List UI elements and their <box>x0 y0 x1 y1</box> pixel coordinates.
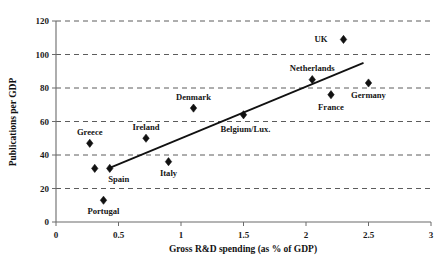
y-axis-title: Publications per GDP <box>8 78 18 167</box>
data-label-netherlands: Netherlands <box>290 63 336 73</box>
data-label-germany: Germany <box>351 90 387 100</box>
y-tick-label-80: 80 <box>40 83 50 93</box>
x-tick-label-2_5: 2.5 <box>363 230 375 240</box>
x-tick-label-3: 3 <box>429 230 434 240</box>
x-tick-label-1: 1 <box>179 230 184 240</box>
trend-line <box>109 63 364 169</box>
y-tick-label-120: 120 <box>36 16 50 26</box>
x-axis-title: Gross R&D spending (as % of GDP) <box>169 244 317 255</box>
data-marker-germany <box>365 79 371 87</box>
y-tick-label-0: 0 <box>45 217 50 227</box>
data-marker-spain <box>107 164 113 172</box>
data-label-france: France <box>318 102 344 112</box>
data-marker-denmark <box>190 104 196 112</box>
data-marker-greece <box>87 139 93 147</box>
data-label-spain: Spain <box>108 174 129 184</box>
x-tick-label-0_5: 0.5 <box>113 230 125 240</box>
y-tick-label-20: 20 <box>40 184 50 194</box>
data-label-ireland: Ireland <box>132 122 159 132</box>
data-marker-france <box>328 91 334 99</box>
data-label-belgium-lux-: Belgium/Lux. <box>221 124 271 134</box>
x-tick-label-0: 0 <box>54 230 59 240</box>
data-marker-unlabeled-0 <box>92 164 98 172</box>
data-labels-group: PortugalGreeceSpainIrelandItalyDenmarkBe… <box>77 34 387 216</box>
data-markers-group <box>87 35 372 204</box>
scatter-plot: 020406080100120 00.511.522.53 PortugalGr… <box>0 0 446 270</box>
x-tick-label-2: 2 <box>304 230 309 240</box>
data-marker-ireland <box>143 134 149 142</box>
y-tick-label-60: 60 <box>40 117 50 127</box>
data-label-denmark: Denmark <box>176 92 211 102</box>
y-tick-label-40: 40 <box>40 150 50 160</box>
x-tick-label-1_5: 1.5 <box>238 230 250 240</box>
y-tick-label-100: 100 <box>36 50 50 60</box>
data-marker-italy <box>165 158 171 166</box>
y-axis-ticks: 020406080100120 <box>36 16 57 227</box>
chart-figure: 020406080100120 00.511.522.53 PortugalGr… <box>0 0 446 270</box>
x-axis-ticks: 00.511.522.53 <box>54 222 434 240</box>
data-label-uk: UK <box>315 34 328 44</box>
data-label-italy: Italy <box>160 168 178 178</box>
data-label-portugal: Portugal <box>88 206 121 216</box>
data-marker-uk <box>340 35 346 43</box>
gridlines-group <box>56 21 430 189</box>
data-label-greece: Greece <box>77 127 103 137</box>
data-marker-portugal <box>100 196 106 204</box>
